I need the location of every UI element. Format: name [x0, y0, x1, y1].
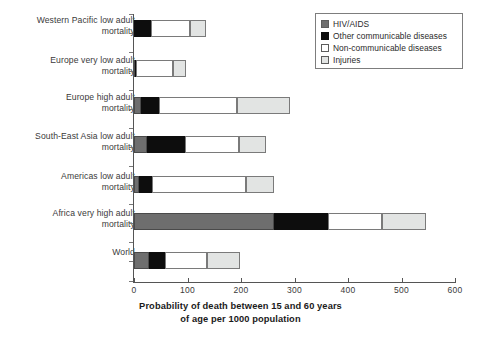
legend-item[interactable]: Other communicable diseases — [321, 30, 457, 42]
bar-segment — [239, 136, 266, 153]
legend-item[interactable]: HIV/AIDS — [321, 18, 457, 30]
bar-segment — [159, 97, 238, 114]
x-axis-tick-label: 200 — [234, 285, 249, 295]
bar-segment — [207, 252, 240, 269]
bar-segment — [134, 136, 147, 153]
bar-segment — [134, 97, 141, 114]
legend-label: Injuries — [333, 56, 360, 65]
legend-swatch-injuries-icon — [321, 56, 329, 64]
x-axis-tick — [295, 278, 296, 283]
bar-segment — [134, 252, 149, 269]
x-axis-tick — [134, 278, 135, 283]
x-axis-title-line2: of age per 1000 population — [0, 313, 481, 326]
bar-segment — [141, 97, 159, 114]
legend-label: HIV/AIDS — [333, 20, 369, 29]
bar-segment — [134, 20, 151, 37]
legend-swatch-non-communicable-icon — [321, 44, 329, 52]
bar-row — [0, 97, 481, 114]
x-axis-tick — [348, 278, 349, 283]
bar-segment — [190, 20, 206, 37]
bar-segment — [173, 60, 186, 77]
bar-segment — [382, 213, 425, 230]
bar-segment — [328, 213, 383, 230]
bar-segment — [165, 252, 207, 269]
y-axis-tick — [129, 281, 133, 282]
legend-swatch-hiv-icon — [321, 20, 329, 28]
bar-segment — [139, 176, 152, 193]
bar-segment — [237, 97, 290, 114]
legend-swatch-other-communicable-icon — [321, 32, 329, 40]
x-axis-tick-label: 300 — [287, 285, 302, 295]
x-axis-title: Probability of death between 15 and 60 y… — [0, 300, 481, 326]
legend-item[interactable]: Injuries — [321, 54, 457, 66]
legend: HIV/AIDS Other communicable diseases Non… — [315, 13, 463, 69]
bar-segment — [134, 213, 274, 230]
x-axis-tick — [188, 278, 189, 283]
legend-item[interactable]: Non-communicable diseases — [321, 42, 457, 54]
x-axis-tick — [455, 278, 456, 283]
bar-row — [0, 136, 481, 153]
x-axis-tick-label: 0 — [132, 285, 137, 295]
bar-chart: Western Pacific low adultmortalityEurope… — [0, 0, 481, 342]
bar-segment — [151, 20, 190, 37]
y-axis-tick — [129, 14, 133, 15]
bar-segment — [152, 176, 246, 193]
legend-label: Other communicable diseases — [333, 32, 447, 41]
y-axis-tick — [129, 90, 133, 91]
y-axis-tick — [129, 52, 133, 53]
x-axis-tick — [402, 278, 403, 283]
x-axis-tick — [241, 278, 242, 283]
bar-segment — [149, 252, 165, 269]
x-axis-title-line1: Probability of death between 15 and 60 y… — [139, 301, 342, 311]
bar-row — [0, 252, 481, 269]
bar-segment — [246, 176, 274, 193]
bar-segment — [274, 213, 328, 230]
y-axis-tick — [129, 204, 133, 205]
y-axis-tick — [129, 242, 133, 243]
x-axis-tick-label: 500 — [394, 285, 409, 295]
bar-row — [0, 176, 481, 193]
bar-segment — [147, 136, 185, 153]
bar-segment — [185, 136, 239, 153]
y-axis-tick — [129, 166, 133, 167]
x-axis-tick-label: 600 — [448, 285, 463, 295]
x-axis-tick-label: 100 — [180, 285, 195, 295]
bar-row — [0, 213, 481, 230]
x-axis-tick-label: 400 — [341, 285, 356, 295]
bar-segment — [136, 60, 173, 77]
legend-label: Non-communicable diseases — [333, 44, 442, 53]
y-axis-tick — [129, 128, 133, 129]
